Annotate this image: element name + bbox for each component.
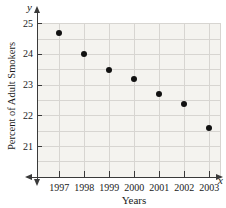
h-gridline bbox=[37, 39, 221, 40]
y-axis-line bbox=[37, 10, 38, 181]
v-gridline bbox=[209, 24, 210, 177]
h-gridline bbox=[37, 100, 221, 101]
x-tick-label: 2000 bbox=[122, 182, 147, 194]
v-gridline bbox=[109, 24, 110, 177]
h-gridline bbox=[37, 54, 221, 55]
h-gridline bbox=[37, 161, 221, 162]
y-tick bbox=[37, 115, 42, 116]
v-gridline-right-edge bbox=[220, 24, 221, 177]
v-gridline bbox=[159, 24, 160, 177]
y-tick bbox=[37, 54, 42, 55]
v-gridline bbox=[84, 24, 85, 177]
h-gridline bbox=[37, 69, 221, 70]
x-tick-label: 1997 bbox=[47, 182, 72, 194]
y-axis-down-arrow-icon bbox=[34, 179, 40, 186]
y-tick bbox=[37, 23, 42, 24]
x-tick-label: 2002 bbox=[172, 182, 197, 194]
y-tick bbox=[37, 85, 42, 86]
x-axis-left-arrow-icon bbox=[25, 174, 32, 180]
y-axis-title: Percent of Adult Smokers bbox=[5, 16, 19, 176]
x-tick-label: 2001 bbox=[147, 182, 172, 194]
h-gridline bbox=[37, 131, 221, 132]
y-axis-symbol: y bbox=[20, 1, 32, 13]
scatter-plot-figure: 25242322211997199819992000200120022003 y… bbox=[0, 0, 226, 208]
y-tick bbox=[37, 146, 42, 147]
h-gridline bbox=[37, 146, 221, 147]
h-gridline bbox=[37, 115, 221, 116]
x-axis-symbol: x bbox=[218, 174, 223, 186]
h-gridline bbox=[37, 85, 221, 86]
x-axis-line bbox=[28, 177, 218, 178]
v-gridline bbox=[134, 24, 135, 177]
h-gridline bbox=[37, 23, 221, 24]
data-point bbox=[181, 101, 187, 107]
v-gridline bbox=[59, 24, 60, 177]
x-axis-title: Years bbox=[104, 194, 164, 207]
x-tick-label: 1998 bbox=[72, 182, 97, 194]
y-axis-up-arrow-icon bbox=[34, 6, 40, 13]
x-tick-label: 1999 bbox=[97, 182, 122, 194]
